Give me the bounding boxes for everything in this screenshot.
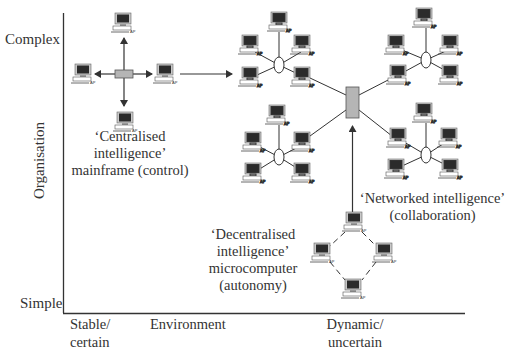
cluster-bottom-right (384, 103, 463, 180)
mainframe-hub (115, 70, 133, 78)
y-axis-top-label: Complex (5, 31, 60, 48)
y-axis-bottom-label: Simple (20, 295, 63, 312)
decentralised-caption-line3: microcomputer (198, 260, 308, 277)
decentralised-computers (310, 212, 397, 300)
x-axis-left-label-line1: Stable/ (70, 316, 110, 333)
networked-caption-line1: ‘Networked intelligence’ (355, 190, 506, 207)
centralised-caption-line3: mainframe (control) (60, 162, 200, 179)
decentralised-caption-line4: (autonomy) (198, 277, 308, 294)
decentralised-caption-line1: ‘Decentralised (198, 226, 308, 243)
y-axis-title: Organisation (31, 115, 48, 207)
decentralised-ring (330, 232, 376, 280)
x-axis-right-label-line2: uncertain (320, 334, 390, 351)
x-axis-title: Environment (150, 316, 226, 333)
x-axis-left-label-line2: certain (70, 334, 109, 351)
network-server-hub (346, 87, 359, 118)
decentralised-caption-line2: intelligence’ (198, 243, 308, 260)
cluster-top-right (384, 8, 463, 86)
cluster-bottom-left (241, 105, 315, 184)
centralised-caption-line1: ‘Centralised (70, 128, 190, 145)
cluster-top-left (238, 12, 315, 88)
networked-caption-line2: (collaboration) (355, 207, 506, 224)
centralised-caption-line2: intelligence’ (70, 145, 190, 162)
x-axis-right-label-line1: Dynamic/ (320, 316, 390, 333)
